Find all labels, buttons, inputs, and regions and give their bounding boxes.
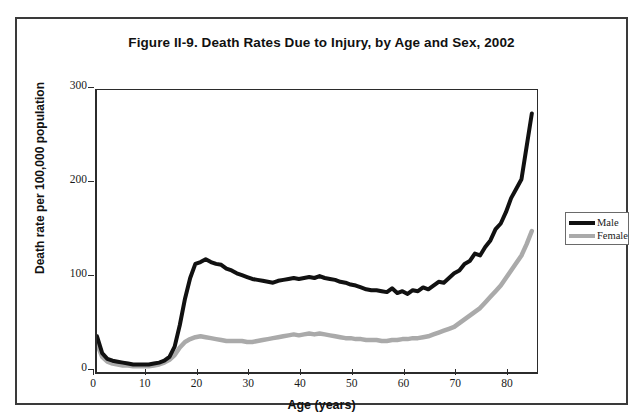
x-tick-mark [352, 369, 353, 375]
x-tick-label: 40 [285, 377, 315, 389]
legend-item-female: Female [569, 229, 625, 242]
plot-area [95, 89, 538, 374]
x-tick-mark [93, 369, 94, 375]
series-line-male [97, 114, 532, 365]
x-tick-mark [145, 369, 146, 375]
y-tick-label: 100 [53, 267, 87, 279]
x-tick-label: 0 [78, 377, 108, 389]
chart-legend: Male Female [565, 212, 629, 245]
legend-label-male: Male [597, 217, 619, 228]
y-tick-mark [88, 275, 94, 276]
legend-item-male: Male [569, 216, 625, 229]
series-line-female [97, 231, 532, 366]
chart-plot [97, 90, 537, 372]
x-tick-label: 30 [233, 377, 263, 389]
figure-frame: Figure II-9. Death Rates Due to Injury, … [15, 17, 628, 405]
x-tick-label: 80 [492, 377, 522, 389]
x-tick-label: 50 [337, 377, 367, 389]
y-axis-title: Death rate per 100,000 population [33, 43, 47, 313]
x-tick-label: 20 [182, 377, 212, 389]
x-tick-label: 60 [389, 377, 419, 389]
y-tick-label: 0 [53, 361, 87, 373]
x-tick-mark [300, 369, 301, 375]
legend-label-female: Female [597, 230, 628, 241]
x-tick-mark [197, 369, 198, 375]
y-tick-label: 300 [53, 79, 87, 91]
x-tick-mark [455, 369, 456, 375]
y-tick-mark [88, 87, 94, 88]
x-tick-mark [507, 369, 508, 375]
y-tick-mark [88, 181, 94, 182]
chart-title: Figure II-9. Death Rates Due to Injury, … [17, 35, 626, 50]
x-tick-label: 10 [130, 377, 160, 389]
x-axis-title: Age (years) [17, 398, 626, 412]
x-tick-label: 70 [440, 377, 470, 389]
x-tick-mark [248, 369, 249, 375]
x-tick-mark [404, 369, 405, 375]
legend-swatch-female [569, 234, 595, 238]
legend-swatch-male [569, 221, 595, 225]
y-tick-label: 200 [53, 173, 87, 185]
